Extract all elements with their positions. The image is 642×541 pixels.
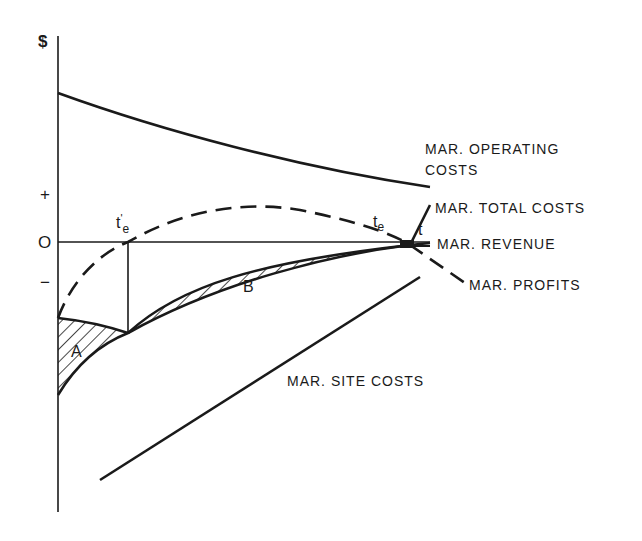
te-label: te <box>373 214 384 233</box>
y-axis-symbol: $ <box>38 33 47 50</box>
region-b-label: B <box>243 279 254 295</box>
profits-label: MAR. PROFITS <box>469 278 581 292</box>
te-sub: e <box>377 220 384 234</box>
tick-zero: O <box>38 234 51 251</box>
total-costs-label: MAR. TOTAL COSTS <box>435 201 585 215</box>
tick-plus: + <box>40 186 50 203</box>
te-prime-sub: e <box>123 222 130 236</box>
region-b-hatch <box>128 245 410 333</box>
te-prime-label: t'e <box>116 213 129 235</box>
operating-costs-curve <box>58 93 430 187</box>
te-crossing-mark <box>400 240 414 248</box>
total-costs-curve <box>58 205 430 395</box>
region-a-label: A <box>71 344 82 360</box>
t-label: t <box>418 222 422 238</box>
chart-canvas <box>0 0 642 541</box>
operating-costs-label-line2: COSTS <box>425 163 478 177</box>
site-costs-label: MAR. SITE COSTS <box>287 374 424 388</box>
operating-costs-label-line1: MAR. OPERATING <box>425 142 559 156</box>
revenue-label: MAR. REVENUE <box>437 237 556 251</box>
tick-minus: − <box>40 274 50 291</box>
